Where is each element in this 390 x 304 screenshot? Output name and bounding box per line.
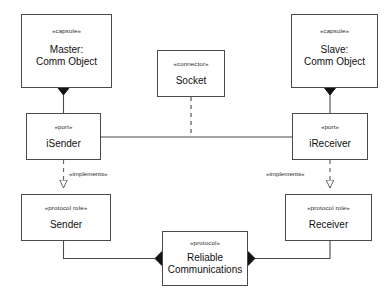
node-stereotype: «port» <box>321 123 339 131</box>
node-stereotype: «protocol role» <box>307 204 349 212</box>
node-master-comm-object[interactable]: «capsule» Master: Comm Object <box>21 14 112 88</box>
node-isender-port[interactable]: «port» iSender <box>26 113 101 160</box>
node-name-line-1: Master: <box>50 44 83 56</box>
node-stereotype: «capsule» <box>52 27 81 35</box>
node-stereotype: «protocol role» <box>45 204 87 212</box>
node-name-line-1: iReceiver <box>309 138 351 150</box>
edge-sender-to-protocol <box>64 241 156 259</box>
node-stereotype: «port» <box>54 123 72 131</box>
node-slave-comm-object[interactable]: «capsule» Slave: Comm Object <box>291 14 378 88</box>
edge-label-implements-left: «implements» <box>69 170 108 178</box>
node-stereotype: «connector» <box>173 60 208 68</box>
edge-label-implements-right: «implements» <box>266 170 305 178</box>
node-name-line-2: Comm Object <box>304 56 365 68</box>
node-ireceiver-port[interactable]: «port» iReceiver <box>292 113 368 160</box>
node-reliable-communications-protocol[interactable]: «protocol» Reliable Communications <box>162 231 248 286</box>
node-stereotype: «capsule» <box>320 27 349 35</box>
node-name-line-2: Comm Object <box>36 56 97 68</box>
node-name-line-1: Reliable <box>187 252 223 264</box>
node-receiver-protocol-role[interactable]: «protocol role» Receiver <box>285 194 372 241</box>
node-name-line-1: iSender <box>46 138 80 150</box>
node-sender-protocol-role[interactable]: «protocol role» Sender <box>21 194 111 241</box>
node-name-line-1: Slave: <box>321 44 349 56</box>
edge-receiver-to-protocol <box>255 241 330 259</box>
node-socket[interactable]: «connector» Socket <box>157 50 225 97</box>
uml-diagram: «capsule» Master: Comm Object «connector… <box>0 0 390 304</box>
node-name-line-2: Communications <box>168 264 242 276</box>
node-stereotype: «protocol» <box>190 239 220 247</box>
node-name-line-1: Receiver <box>309 219 348 231</box>
node-name-line-1: Socket <box>176 75 207 87</box>
node-name-line-1: Sender <box>50 219 82 231</box>
